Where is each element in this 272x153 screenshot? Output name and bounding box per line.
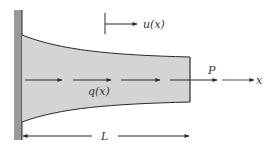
tapered-bar-diagram: q(x) P x u(x) L — [0, 0, 272, 153]
displacement-label: u(x) — [143, 18, 165, 31]
fixed-wall-support — [14, 10, 22, 140]
length-label: L — [100, 130, 108, 143]
end-force-label: P — [207, 64, 216, 77]
distributed-load-label: q(x) — [88, 85, 110, 98]
tapered-bar — [22, 35, 190, 122]
displacement-indicator — [105, 13, 137, 34]
x-axis-label: x — [256, 74, 263, 87]
